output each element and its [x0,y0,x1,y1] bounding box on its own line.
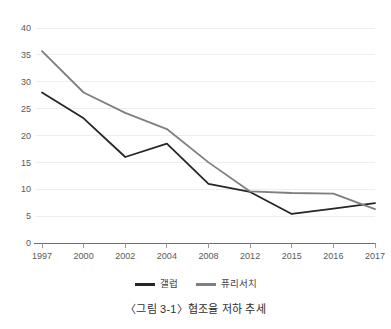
chart-plot-area: 0510152025303540 19972000200220042008201… [0,0,391,272]
series-line-갤럽 [42,93,375,214]
x-tick-label: 2017 [365,251,385,261]
y-tick-label: 15 [21,158,31,168]
y-tick-label: 20 [21,131,31,141]
x-tick-label: 2000 [74,251,94,261]
legend-swatch-pew [196,283,216,286]
y-tick-label: 35 [21,50,31,60]
y-tick-label: 0 [26,238,31,248]
figure-container: 0510152025303540 19972000200220042008201… [0,0,391,329]
y-tick-label: 5 [26,211,31,221]
chart-legend: 갤럽 퓨리서치 [0,272,391,296]
y-tick-label: 10 [21,184,31,194]
legend-item-gallup[interactable]: 갤럽 [135,279,178,289]
legend-label-gallup: 갤럽 [160,279,178,289]
x-tick-label: 2008 [198,251,218,261]
y-axis-tick-labels: 0510152025303540 [21,23,31,248]
figure-caption: 〈그림 3-1〉협조율 저하 추세 [0,300,391,316]
x-tick-label: 2012 [240,251,260,261]
series-line-퓨리서치 [42,51,375,209]
legend-label-pew: 퓨리서치 [221,279,257,289]
x-tick-label: 2015 [282,251,302,261]
x-tick-label: 2002 [115,251,135,261]
x-tick-label: 2004 [157,251,177,261]
x-axis-group [34,243,375,248]
x-tick-label: 2016 [323,251,343,261]
y-tick-label: 25 [21,104,31,114]
legend-swatch-gallup [135,283,155,286]
x-axis-tick-labels: 199720002002200420082012201520162017 [32,251,385,261]
legend-item-pew[interactable]: 퓨리서치 [196,279,257,289]
line-chart-svg: 0510152025303540 19972000200220042008201… [0,0,391,272]
y-tick-label: 30 [21,77,31,87]
x-tick-label: 1997 [32,251,52,261]
y-tick-label: 40 [21,23,31,33]
